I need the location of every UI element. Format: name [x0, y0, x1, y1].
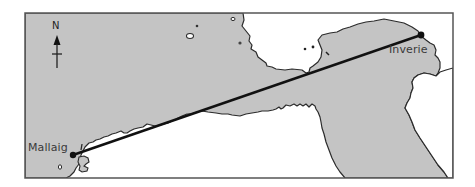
- place-label-mallaig: Mallaig: [28, 142, 68, 153]
- mallaig-marker: [70, 152, 76, 158]
- map-canvas: [0, 0, 475, 187]
- island-loch-2: [231, 17, 235, 20]
- map-figure: N Mallaig Inverie: [0, 0, 475, 187]
- island-near-mallaig: [58, 165, 61, 169]
- islet-2: [238, 41, 241, 44]
- islet-4: [312, 46, 315, 49]
- place-label-inverie: Inverie: [389, 44, 428, 55]
- island-loch-1: [187, 34, 194, 39]
- islet-3: [304, 48, 307, 51]
- inverie-marker: [418, 32, 425, 39]
- islet-1: [196, 25, 199, 28]
- north-label: N: [52, 21, 59, 31]
